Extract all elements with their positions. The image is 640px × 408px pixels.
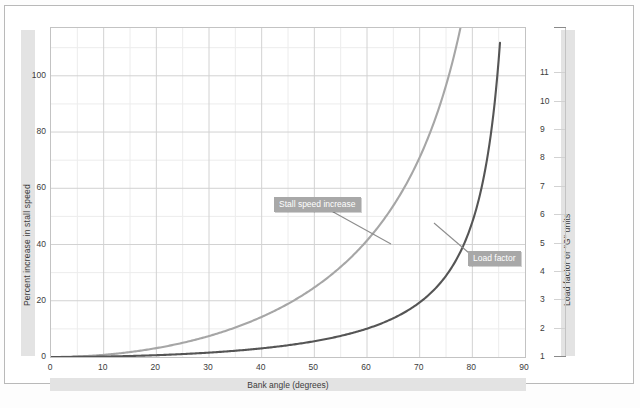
right-axis-end-tick (554, 356, 566, 357)
stall-callout-leader (326, 208, 391, 244)
right-axis-tick (554, 243, 565, 244)
grid-minor (51, 28, 525, 357)
bottom-tick-label: 80 (459, 362, 483, 372)
plot-area (50, 27, 526, 358)
right-axis-end-tick (554, 27, 566, 28)
stall-speed-callout: Stall speed increase (274, 197, 361, 212)
right-axis-tick (554, 186, 565, 187)
left-tick-label: 80 (22, 126, 46, 136)
bottom-tick-label: 50 (301, 362, 325, 372)
bottom-tick-label: 20 (143, 362, 167, 372)
bottom-tick-label: 60 (354, 362, 378, 372)
bottom-tick-label: 0 (38, 362, 62, 372)
x-axis-label: Bank angle (degrees) (50, 380, 526, 390)
bottom-tick-label: 40 (249, 362, 273, 372)
chart-svg (51, 28, 525, 357)
right-axis-spine (565, 27, 566, 356)
right-axis-tick (554, 72, 565, 73)
right-axis-tick (554, 157, 565, 158)
load-callout-leader (434, 223, 469, 253)
bottom-tick-label: 30 (196, 362, 220, 372)
right-axis-tick (554, 214, 565, 215)
stall-speed-curve (51, 28, 460, 357)
right-axis-label: Load factor or "G" units (562, 213, 572, 306)
left-tick-label: 40 (22, 239, 46, 249)
chart-page: Percent increase in stall speed Load fac… (0, 0, 640, 408)
right-axis-tick (554, 101, 565, 102)
load-factor-callout: Load factor (468, 251, 521, 266)
right-axis-tick (554, 328, 565, 329)
bottom-tick-label: 70 (407, 362, 431, 372)
bottom-tick-label: 90 (512, 362, 536, 372)
left-tick-label: 20 (22, 295, 46, 305)
figure-frame: Percent increase in stall speed Load fac… (4, 5, 634, 384)
right-axis-tick (554, 299, 565, 300)
right-axis-label-band (561, 30, 575, 356)
left-tick-label: 60 (22, 182, 46, 192)
left-tick-label: 100 (22, 70, 46, 80)
right-axis-tick (554, 129, 565, 130)
right-axis-tick (554, 271, 565, 272)
bottom-tick-label: 10 (91, 362, 115, 372)
left-tick-label: 0 (22, 351, 46, 361)
